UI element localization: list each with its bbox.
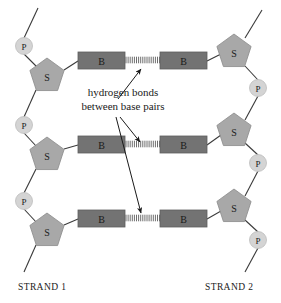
backbone-segment <box>245 10 262 38</box>
unit-letter: S <box>231 203 237 214</box>
unit-letter: S <box>231 127 237 138</box>
dna-diagram-svg: SSSSSS BBBBBB PPPPPP hydrogen bonds betw… <box>0 0 281 303</box>
sugar-to-base-link <box>64 219 78 225</box>
unit-letter: B <box>180 214 187 225</box>
hydrogen-bond <box>126 141 160 148</box>
unit-letter: B <box>98 214 105 225</box>
sugar-to-base-link <box>64 145 78 149</box>
unit-letter: P <box>255 159 260 169</box>
backbone-segment <box>24 8 38 38</box>
base-rect: B <box>78 210 125 227</box>
unit-letter: P <box>255 236 260 246</box>
unit-letter: S <box>44 72 50 83</box>
hydrogen-bond <box>126 57 160 64</box>
callout-line-2: between base pairs <box>81 100 164 112</box>
base-rect: B <box>78 136 125 153</box>
unit-letter: B <box>98 56 105 67</box>
callout-line-1: hydrogen bonds <box>88 86 159 98</box>
unit-letter: S <box>44 227 50 238</box>
phosphate-circle: P <box>16 38 33 55</box>
phosphate-circle: P <box>250 155 267 172</box>
sugar-to-base-link <box>207 211 221 219</box>
phosphate-circle: P <box>16 193 33 210</box>
backbone-segment <box>24 90 36 117</box>
sugar-pentagon: S <box>30 213 64 246</box>
backbone-segment <box>245 66 258 80</box>
phosphate-circle: P <box>250 80 267 97</box>
backbone-segment <box>245 96 258 120</box>
sugar-pentagon: S <box>217 34 251 67</box>
sugar-to-base-link <box>207 54 221 61</box>
sugars-group: SSSSSS <box>30 34 251 246</box>
base-rect: B <box>160 136 207 153</box>
base-rect: B <box>160 52 207 69</box>
phosphate-circle: P <box>250 232 267 249</box>
arrow-to-bottom-bond <box>116 117 141 213</box>
bases-group: BBBBBB <box>78 52 207 227</box>
backbone-segment <box>245 220 258 232</box>
unit-letter: P <box>21 121 26 131</box>
sugar-pentagon: S <box>30 58 64 91</box>
strand-1-label: STRAND 1 <box>18 282 66 292</box>
backbone-segment <box>24 133 37 147</box>
dna-diagram-figure: SSSSSS BBBBBB PPPPPP hydrogen bonds betw… <box>0 0 281 303</box>
unit-letter: P <box>21 42 26 52</box>
backbone-segment <box>245 171 258 196</box>
sugar-to-base-link <box>64 61 78 70</box>
unit-letter: S <box>231 48 237 59</box>
backbone-segment <box>245 143 258 155</box>
backbone-segment <box>24 209 37 223</box>
phosphate-circle: P <box>16 117 33 134</box>
base-rect: B <box>78 52 125 69</box>
unit-letter: B <box>98 140 105 151</box>
backbone-segment <box>24 169 36 193</box>
hydrogen-bond <box>126 215 160 222</box>
backbone-segment <box>24 245 36 272</box>
base-rect: B <box>160 210 207 227</box>
unit-letter: S <box>44 151 50 162</box>
unit-letter: B <box>180 56 187 67</box>
unit-letter: P <box>255 84 260 94</box>
unit-letter: B <box>180 140 187 151</box>
unit-letter: P <box>21 197 26 207</box>
sugar-pentagon: S <box>30 137 64 170</box>
strand-2-label: STRAND 2 <box>205 282 253 292</box>
backbone-segment <box>245 248 258 272</box>
sugar-to-base-link <box>207 135 221 145</box>
